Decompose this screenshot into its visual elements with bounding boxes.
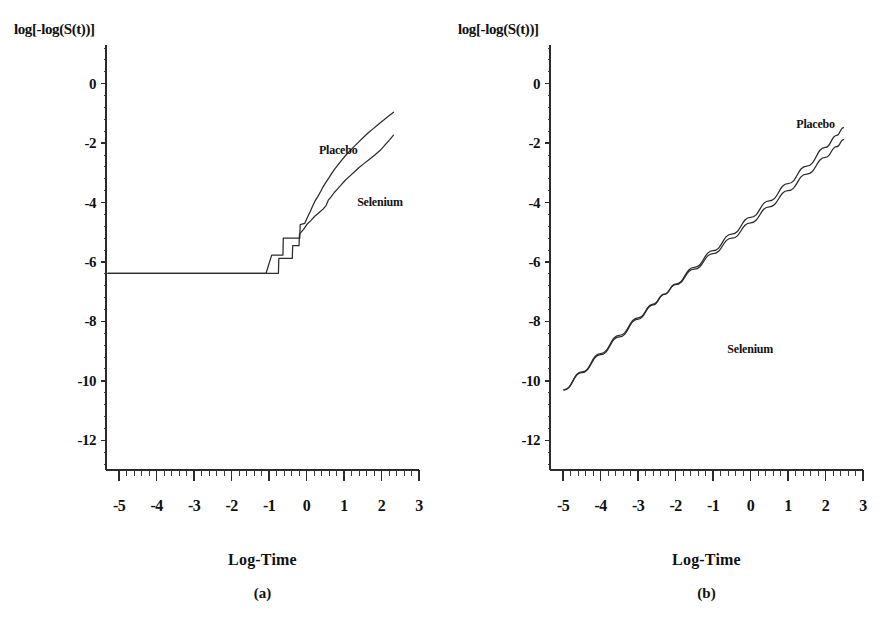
x-tick-label: 0	[303, 497, 311, 514]
plot-svg-b: log[-log(S(t))]0-2-4-6-8-10-12-5-4-3-2-1…	[444, 0, 887, 638]
y-tick-label: -2	[85, 135, 97, 151]
y-tick-label: -8	[85, 313, 97, 329]
y-tick-label: -6	[529, 254, 541, 270]
x-tick-label: 1	[340, 497, 348, 514]
series-line-placebo	[564, 128, 844, 390]
x-axis-title: Log-Time	[672, 551, 741, 569]
figure-root: log[-log(S(t))]0-2-4-6-8-10-12-5-4-3-2-1…	[0, 0, 887, 638]
y-tick-label: -2	[529, 135, 541, 151]
x-tick-label: -5	[557, 497, 570, 514]
series-line-selenium	[564, 140, 844, 390]
x-tick-label: 3	[859, 497, 867, 514]
x-tick-label: 2	[378, 497, 386, 514]
y-tick-label: 0	[533, 76, 540, 92]
curve-label-selenium: Selenium	[357, 195, 403, 209]
x-tick-label: 0	[747, 497, 755, 514]
x-tick-label: -2	[225, 497, 238, 514]
y-tick-label: -10	[78, 373, 97, 389]
y-tick-label: -4	[85, 195, 97, 211]
x-tick-label: -3	[632, 497, 645, 514]
panel-caption: (a)	[254, 585, 272, 602]
series-line-placebo	[108, 112, 394, 273]
curve-label-selenium: Selenium	[727, 342, 773, 356]
y-tick-label: -8	[529, 313, 541, 329]
curve-label-placebo: Placebo	[796, 117, 835, 131]
x-tick-label: -1	[707, 497, 720, 514]
x-tick-label: -4	[594, 497, 607, 514]
x-tick-label: 2	[822, 497, 830, 514]
x-tick-label: 3	[415, 497, 423, 514]
y-tick-label: -10	[522, 373, 541, 389]
y-tick-label: -4	[529, 195, 541, 211]
y-tick-label: 0	[89, 76, 96, 92]
x-tick-label: -3	[188, 497, 201, 514]
x-tick-label: -1	[263, 497, 276, 514]
y-tick-label: -12	[78, 432, 97, 448]
x-axis-title: Log-Time	[228, 551, 297, 569]
y-tick-label: -6	[85, 254, 97, 270]
curve-label-placebo: Placebo	[319, 143, 358, 157]
x-tick-label: 1	[784, 497, 792, 514]
panel-caption: (b)	[697, 585, 715, 602]
y-tick-label: -12	[522, 432, 541, 448]
x-tick-label: -4	[150, 497, 163, 514]
y-axis-title: log[-log(S(t))]	[14, 21, 95, 38]
x-tick-label: -2	[669, 497, 682, 514]
plot-svg-a: log[-log(S(t))]0-2-4-6-8-10-12-5-4-3-2-1…	[0, 0, 443, 638]
x-tick-label: -5	[113, 497, 126, 514]
y-axis-title: log[-log(S(t))]	[458, 21, 539, 38]
chart-panel-b: log[-log(S(t))]0-2-4-6-8-10-12-5-4-3-2-1…	[444, 0, 887, 638]
chart-panel-a: log[-log(S(t))]0-2-4-6-8-10-12-5-4-3-2-1…	[0, 0, 443, 638]
